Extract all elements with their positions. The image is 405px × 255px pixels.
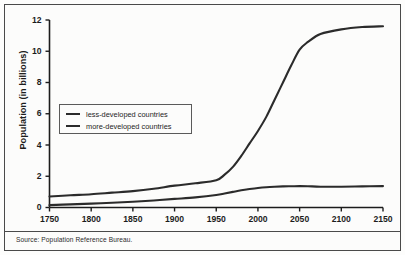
y-tick-label: 0 [20, 202, 42, 212]
x-tick-label: 1750 [30, 214, 70, 224]
chart-legend: less-developed countries more-developed … [59, 104, 192, 134]
legend-swatch-icon [66, 113, 80, 115]
source-divider [5, 231, 400, 232]
x-tick-label: 1900 [155, 214, 195, 224]
legend-item-more-developed-countries: more-developed countries [66, 120, 171, 132]
legend-label: less-developed countries [86, 110, 168, 119]
source-note: Source: Population Reference Bureau. [16, 236, 133, 243]
population-projection-figure: 024681012 175018001850190019502000205021… [0, 0, 405, 255]
x-tick-label: 1950 [196, 214, 236, 224]
x-tick-label: 2050 [280, 214, 320, 224]
legend-swatch-icon [66, 125, 80, 127]
x-tick-label: 1800 [71, 214, 111, 224]
chart-plot-area: 024681012 175018001850190019502000205021… [0, 0, 405, 255]
x-tick-label: 1850 [113, 214, 153, 224]
legend-label: more-developed countries [86, 122, 171, 131]
x-tick-label: 2000 [238, 214, 278, 224]
x-tick-label: 2100 [321, 214, 361, 224]
y-axis-title: Population (in billions) [18, 25, 28, 175]
x-tick-label: 2150 [363, 214, 403, 224]
y-tick-label: 12 [20, 15, 42, 25]
legend-item-less-developed-countries: less-developed countries [66, 108, 168, 120]
series-line-more-developed-countries [50, 186, 384, 205]
